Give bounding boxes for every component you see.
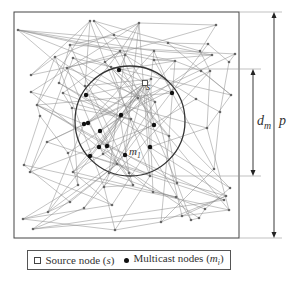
node-dot-icon — [209, 70, 212, 73]
network-edge — [104, 187, 115, 230]
node-dot-icon — [72, 57, 75, 60]
node-dot-icon — [69, 201, 72, 204]
node-dot-icon — [69, 44, 72, 47]
node-dot-icon — [104, 61, 107, 64]
network-edge — [18, 30, 168, 43]
multicast-node-icon — [97, 145, 101, 149]
node-dot-icon — [175, 196, 178, 199]
network-edge — [139, 23, 216, 25]
network-edge — [207, 71, 210, 128]
network-edge — [63, 51, 120, 93]
network-edge — [30, 142, 47, 172]
network-edge — [30, 58, 73, 172]
node-dot-icon — [174, 60, 177, 63]
network-edge — [59, 45, 70, 83]
node-dot-icon — [154, 101, 157, 104]
node-dot-icon — [66, 67, 69, 70]
node-dot-icon — [54, 56, 57, 59]
multicast-node-icon — [98, 129, 102, 133]
network-edge — [33, 208, 84, 229]
node-dot-icon — [29, 171, 32, 174]
network-edge — [30, 172, 112, 205]
node-dot-icon — [181, 215, 184, 218]
multicast-dot-icon — [124, 258, 129, 263]
node-dot-icon — [23, 164, 26, 167]
source-node-label: s — [146, 80, 150, 92]
network-edge — [18, 30, 154, 60]
node-dot-icon — [225, 195, 228, 198]
network-edge — [150, 128, 207, 147]
node-dot-icon — [198, 217, 201, 220]
network-edge — [169, 61, 175, 136]
node-dot-icon — [30, 74, 33, 77]
legend-source-label: Source node (s) — [45, 254, 114, 266]
network-edge — [115, 222, 161, 230]
network-edge — [63, 93, 72, 108]
network-edge — [73, 156, 90, 172]
node-dot-icon — [234, 53, 237, 56]
node-dot-icon — [36, 104, 39, 107]
node-dot-icon — [22, 218, 25, 221]
node-dot-icon — [113, 34, 116, 37]
node-dot-icon — [228, 61, 231, 64]
legend: Source node (s) Multicast nodes (mi) — [27, 250, 231, 270]
node-dot-icon — [137, 97, 140, 100]
node-dot-icon — [190, 219, 193, 222]
multicast-node-icon — [170, 91, 174, 95]
node-dot-icon — [39, 115, 42, 118]
multicast-node-icon — [152, 123, 156, 127]
multicast-node-icon — [86, 121, 90, 125]
node-dot-icon — [62, 92, 65, 95]
node-dot-icon — [228, 209, 231, 212]
node-dot-icon — [84, 85, 87, 88]
network-edges — [18, 21, 235, 230]
node-dot-icon — [138, 22, 141, 25]
node-dot-icon — [89, 20, 92, 23]
network-edge — [85, 79, 151, 86]
network-edge — [175, 61, 201, 71]
network-edge — [18, 30, 175, 61]
multicast-node-m1-label: m1 — [129, 145, 141, 160]
node-dot-icon — [128, 172, 131, 175]
node-dot-icon — [200, 70, 203, 73]
network-edge — [84, 173, 109, 208]
multicast-node-icon — [123, 153, 127, 157]
legend-multicast: Multicast nodes (mi) — [124, 252, 223, 267]
node-dot-icon — [103, 186, 106, 189]
node-dot-icon — [207, 43, 210, 46]
network-edge — [24, 165, 70, 202]
p-dimension-label: p — [279, 113, 286, 129]
node-dot-icon — [229, 187, 232, 190]
node-dot-icon — [204, 208, 207, 211]
node-dot-icon — [108, 172, 111, 175]
multicast-node-icon — [84, 93, 88, 97]
node-dot-icon — [47, 211, 50, 214]
node-dot-icon — [153, 50, 156, 53]
node-dot-icon — [132, 184, 135, 187]
multicast-node-icon — [82, 122, 86, 126]
node-dot-icon — [176, 182, 179, 185]
node-dot-icon — [215, 24, 218, 27]
network-edge — [31, 21, 90, 75]
node-dot-icon — [153, 59, 156, 62]
node-dot-icon — [32, 228, 35, 231]
multicast-node-icon — [117, 68, 121, 72]
network-edge — [109, 173, 205, 209]
node-dot-icon — [93, 20, 96, 23]
network-edge — [94, 21, 114, 35]
node-dot-icon — [130, 118, 133, 121]
node-dot-icon — [46, 141, 49, 144]
network-edge — [23, 205, 112, 219]
node-dot-icon — [102, 153, 105, 156]
node-dot-icon — [168, 135, 171, 138]
multicast-node-icon — [119, 113, 123, 117]
network-edge — [107, 83, 145, 146]
network-edge — [18, 30, 154, 51]
node-dot-icon — [213, 168, 216, 171]
node-dot-icon — [223, 199, 226, 202]
node-dot-icon — [195, 98, 198, 101]
node-dot-icon — [83, 207, 86, 210]
node-dot-icon — [199, 50, 202, 53]
network-edge — [24, 116, 40, 165]
node-dot-icon — [149, 175, 152, 178]
